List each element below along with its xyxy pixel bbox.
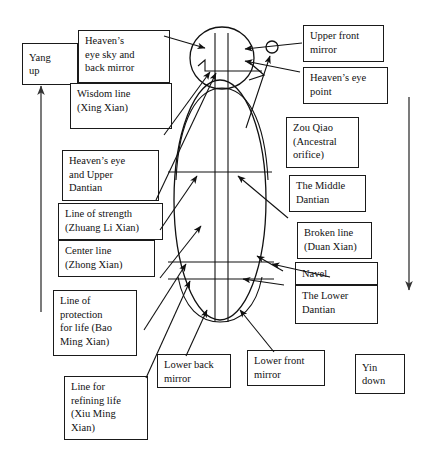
- leader-wisdom-line: [164, 72, 210, 135]
- leader-zou-qiao: [246, 56, 270, 128]
- leader-center-line: [160, 226, 201, 278]
- leader-lower-back-mirror: [186, 310, 207, 356]
- leader-heavens-eye-sky-back-mirror: [164, 36, 205, 48]
- leader-navel: [257, 256, 283, 271]
- leader-upper-front-mirror: [245, 43, 302, 49]
- diagram-canvas: Yang up Heaven’s eye sky and back mirror…: [0, 0, 429, 472]
- leader-lower-front-mirror: [240, 310, 274, 352]
- leader-line-of-strength: [160, 176, 197, 230]
- leader-line-for-refining-life: [146, 281, 190, 378]
- leader-middle-dantian: [238, 176, 288, 218]
- leader-heavens-eye-point: [245, 61, 300, 72]
- leader-heavens-eye-upper-dantian: [156, 73, 216, 200]
- leader-navel-inner: [272, 264, 330, 277]
- leader-lines-layer: [0, 0, 429, 472]
- leader-line-of-protection: [144, 264, 186, 330]
- leader-lower-dantian: [243, 279, 284, 285]
